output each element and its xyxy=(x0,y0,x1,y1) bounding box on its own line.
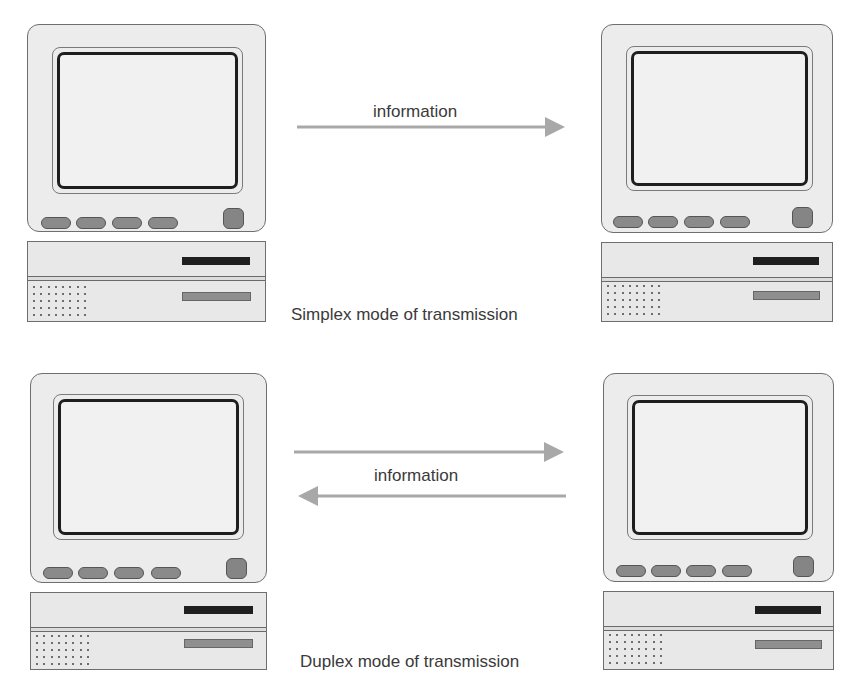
system-unit xyxy=(27,241,266,322)
monitor-button-4 xyxy=(722,565,752,577)
monitor-button-3 xyxy=(686,565,716,577)
monitor-bezel xyxy=(627,395,813,540)
computer-duplex-node-b xyxy=(603,373,834,670)
monitor-button-4 xyxy=(148,217,178,229)
monitor-button-1 xyxy=(43,567,73,579)
monitor-bezel xyxy=(53,394,244,540)
monitor-button-1 xyxy=(616,565,646,577)
drive-bay-icon xyxy=(753,291,820,300)
drive-bay-icon xyxy=(184,639,253,648)
power-button-icon xyxy=(223,208,244,229)
drive-slot-icon xyxy=(182,257,250,265)
drive-bay-icon xyxy=(755,640,822,649)
system-unit xyxy=(30,592,267,670)
system-unit xyxy=(603,591,834,670)
monitor-button-3 xyxy=(112,217,142,229)
monitor-bezel xyxy=(626,46,813,191)
monitor-screen xyxy=(57,52,238,189)
drive-slot-icon xyxy=(184,606,253,614)
power-button-icon xyxy=(792,207,813,228)
speaker-grille-icon xyxy=(33,286,91,321)
monitor xyxy=(30,373,267,583)
computer-simplex-sender xyxy=(27,24,266,322)
drive-slot-icon xyxy=(755,606,821,614)
monitor-screen xyxy=(631,51,808,186)
monitor-button-1 xyxy=(41,217,71,229)
speaker-grille-icon xyxy=(36,635,94,670)
monitor xyxy=(601,24,833,233)
duplex-arrow-label: information xyxy=(374,466,458,486)
monitor xyxy=(603,373,834,582)
duplex-caption: Duplex mode of transmission xyxy=(300,652,519,672)
power-button-icon xyxy=(793,556,814,577)
duplex-arrow-right xyxy=(294,442,564,462)
monitor-screen xyxy=(58,399,239,535)
monitor-button-4 xyxy=(151,567,181,579)
monitor-screen xyxy=(632,400,808,535)
monitor-button-1 xyxy=(613,216,643,228)
system-unit xyxy=(601,242,833,322)
monitor-button-2 xyxy=(76,217,106,229)
speaker-grille-icon xyxy=(609,634,667,669)
monitor-bezel xyxy=(52,47,243,194)
simplex-arrow-label: information xyxy=(373,102,457,122)
monitor-button-3 xyxy=(684,216,714,228)
monitor-button-2 xyxy=(648,216,678,228)
simplex-caption: Simplex mode of transmission xyxy=(291,305,518,325)
computer-duplex-node-a xyxy=(30,373,267,670)
duplex-arrow-left xyxy=(298,486,566,506)
system-unit-divider xyxy=(602,277,832,282)
drive-slot-icon xyxy=(753,257,819,265)
power-button-icon xyxy=(226,558,247,579)
speaker-grille-icon xyxy=(607,285,665,320)
monitor-button-2 xyxy=(78,567,108,579)
monitor-button-3 xyxy=(114,567,144,579)
computer-simplex-receiver xyxy=(601,24,833,322)
drive-bay-icon xyxy=(182,292,251,301)
system-unit-divider xyxy=(604,626,833,631)
monitor-button-2 xyxy=(651,565,681,577)
system-unit-divider xyxy=(28,276,265,281)
system-unit-divider xyxy=(31,627,266,632)
monitor-button-4 xyxy=(720,216,750,228)
monitor xyxy=(27,24,266,232)
